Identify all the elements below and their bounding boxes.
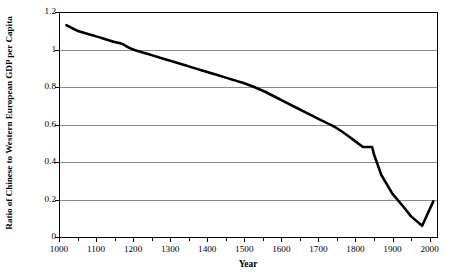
x-tick-label: 2000 xyxy=(410,245,450,254)
x-tick-label: 1200 xyxy=(113,245,153,254)
x-tick-label-group: 1000110012001300140015001600170018001900… xyxy=(0,0,453,280)
x-tick-label: 1400 xyxy=(187,245,227,254)
chart-figure: Ratio of Chinese to Western European GDP… xyxy=(0,0,453,280)
x-tick-label: 1000 xyxy=(39,245,79,254)
x-tick-label: 1100 xyxy=(76,245,116,254)
x-tick-label: 1600 xyxy=(261,245,301,254)
x-axis-title: Year xyxy=(59,259,437,269)
x-tick-label: 1300 xyxy=(150,245,190,254)
x-tick-label: 1900 xyxy=(373,245,413,254)
x-tick-label: 1700 xyxy=(298,245,338,254)
x-tick-label: 1500 xyxy=(224,245,264,254)
x-tick-label: 1800 xyxy=(335,245,375,254)
